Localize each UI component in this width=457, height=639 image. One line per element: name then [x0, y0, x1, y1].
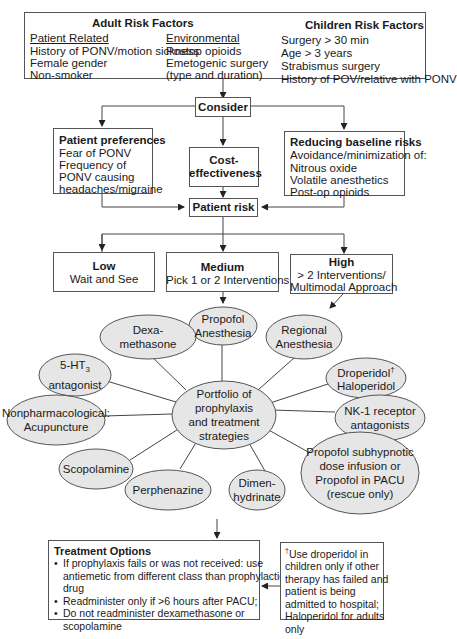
node-label: Scopolamine [63, 462, 129, 476]
environmental-heading: Environmental [166, 31, 240, 45]
patient-risk-label: Patient risk [189, 200, 258, 214]
node-propofol-subhypnotic: Propofol subhypnotic dose infusion or Pr… [301, 432, 419, 514]
node-perphenazine: Perphenazine [125, 470, 211, 510]
node-label: Propofol in PACU [315, 473, 404, 487]
node-label: dose infusion or [319, 459, 400, 473]
node-label: Acupuncture [24, 420, 89, 434]
node-label: Propofol subhypnotic [306, 445, 413, 459]
treatment-bullet: Do not readminister dexamethasone or sco… [54, 607, 285, 632]
reducing-risks-item: Avoidance/minimization of: [290, 148, 427, 162]
node-label: NK-1 receptor [344, 404, 416, 418]
node-label: 5-HT3 [60, 358, 90, 377]
adult-risk-title: Adult Risk Factors [92, 16, 194, 30]
node-dimenhydrinate: Dimen- hydrinate [229, 470, 285, 510]
node-label: Anesthesia [276, 337, 333, 351]
node-label: prophylaxis [195, 401, 253, 415]
cost-effectiveness-line2: effectiveness [189, 166, 259, 180]
node-scopolamine: Scopolamine [59, 449, 133, 489]
node-propofol-anesthesia: Propofol Anesthesia [189, 307, 257, 345]
node-dexamethasone: Dexa- methasone [100, 315, 196, 359]
risk-high-desc: Multimodal Approach [290, 280, 393, 294]
children-risk-item: Strabismus surgery [281, 59, 380, 73]
risk-high-title: High [290, 255, 393, 269]
children-risk-title: Children Risk Factors [305, 18, 424, 32]
node-label: Nonpharmacological: [2, 406, 110, 420]
treatment-bullet: Readminister only if >6 hours after PACU… [54, 595, 285, 608]
children-risk-item: Surgery > 30 min [281, 33, 369, 47]
node-label: Dexa- [133, 323, 164, 337]
risk-low-desc: Wait and See [53, 272, 155, 286]
environmental-item: (type and duration) [166, 68, 263, 82]
dagger-icon: † [390, 365, 394, 374]
patient-preferences-title: Patient preferences [59, 133, 166, 147]
patient-preferences-item: headaches/migraine [59, 182, 163, 196]
node-portfolio-center: Portfolio of prophylaxis and treatment s… [172, 381, 276, 449]
node-label: Haloperidol [337, 379, 395, 393]
risk-medium-desc: Pick 1 or 2 Interventions [166, 273, 279, 287]
node-label: (rescue only) [327, 487, 393, 501]
node-label: strategies [199, 429, 249, 443]
risk-medium-title: Medium [166, 260, 279, 274]
node-label: and treatment [189, 415, 260, 429]
node-label: Anesthesia [195, 326, 252, 340]
node-droperidol-haloperidol: Droperidol† Haloperidol [326, 358, 406, 398]
node-regional-anesthesia: Regional Anesthesia [266, 315, 342, 359]
node-label: Regional [281, 323, 326, 337]
children-risk-item: Age > 3 years [281, 46, 352, 60]
patient-related-heading: Patient Related [30, 31, 109, 45]
treatment-bullet: If prophylaxis fails or was not received… [54, 557, 285, 595]
node-label: antagonist [48, 378, 101, 392]
patient-related-item: Non-smoker [30, 68, 93, 82]
children-risk-item: History of POV/relative with PONV [281, 72, 457, 86]
treatment-options-list: If prophylaxis fails or was not received… [54, 557, 285, 632]
node-label: methasone [120, 337, 177, 351]
node-label: Portfolio of [197, 387, 252, 401]
node-label: antagonists [351, 418, 410, 432]
footnote-text: †Use droperidol in children only if othe… [285, 545, 388, 635]
node-label: Dimen- [238, 476, 275, 490]
consider-label: Consider [195, 100, 251, 114]
risk-low-title: Low [53, 259, 155, 273]
reducing-risks-title: Reducing baseline risks [290, 135, 422, 149]
node-label: hydrinate [233, 490, 280, 504]
node-label: Perphenazine [133, 483, 204, 497]
treatment-options-title: Treatment Options [54, 544, 151, 558]
node-label: Droperidol† [337, 363, 395, 380]
cost-effectiveness-line1: Cost- [189, 153, 259, 167]
reducing-risks-item: Post-op opioids [290, 185, 369, 199]
node-5ht3-antagonist: 5-HT3 antagonist [39, 354, 111, 396]
node-label: Propofol [202, 312, 245, 326]
node-nonpharmacological: Nonpharmacological: Acupuncture [7, 395, 105, 445]
